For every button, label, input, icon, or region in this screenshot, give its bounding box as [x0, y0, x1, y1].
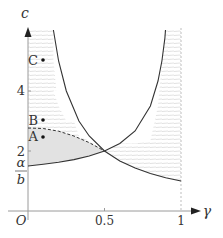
chart-figure: c γ O 0.5 1 4 2 α b C B A — [0, 0, 223, 238]
point-a-marker — [41, 135, 45, 139]
point-a-label: A — [28, 129, 39, 144]
alpha-label: α — [17, 155, 26, 170]
x-axis-arrow-icon — [191, 208, 201, 215]
x-axis-label: γ — [203, 203, 212, 219]
origin-label: O — [16, 213, 27, 228]
x-tick-label-1: 1 — [177, 214, 185, 228]
point-c-label: C — [28, 53, 38, 68]
shaded-region — [28, 128, 105, 166]
point-b-marker — [41, 118, 45, 122]
y-axis-label: c — [21, 5, 29, 21]
point-b-label: B — [28, 113, 38, 128]
b-label: b — [17, 172, 25, 187]
chart-svg: c γ O 0.5 1 4 2 α b C B A — [0, 0, 223, 238]
y-tick-label-4: 4 — [17, 83, 25, 98]
point-c-marker — [41, 58, 45, 62]
x-tick-label-0.5: 0.5 — [95, 214, 114, 228]
